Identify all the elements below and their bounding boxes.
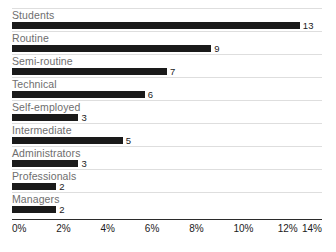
x-tick-label: 0%: [12, 222, 26, 235]
x-tick-label: 4%: [101, 222, 115, 235]
bar-row: Managers2: [0, 192, 336, 215]
bar-track: 5: [12, 137, 322, 144]
bar-row: Intermediate5: [0, 123, 336, 146]
x-tick-label: 6%: [145, 222, 159, 235]
bar-track: 7: [12, 68, 322, 75]
x-tick-label: 8%: [189, 222, 203, 235]
bar-value-label: 2: [56, 204, 64, 215]
bar-row: Semi-routine7: [0, 54, 336, 77]
bar-fill: [12, 206, 56, 213]
bar-fill: [12, 137, 123, 144]
bar-value-label: 7: [167, 66, 175, 77]
bar-track: 9: [12, 45, 322, 52]
x-axis-line: [12, 219, 322, 220]
bar-category-label: Managers: [12, 193, 60, 205]
bar-track: 13: [12, 22, 322, 29]
bar-value-label: 6: [145, 89, 153, 100]
bar-row: Routine9: [0, 31, 336, 54]
bar-fill: [12, 45, 211, 52]
bar-category-label: Intermediate: [12, 124, 72, 136]
x-axis: 0%2%4%6%8%10%12%14%: [0, 219, 336, 252]
bar-value-label: 2: [56, 181, 64, 192]
bar-category-label: Professionals: [12, 170, 76, 182]
bar-row: Administrators3: [0, 146, 336, 169]
bar-fill: [12, 22, 300, 29]
row-separator: [12, 8, 322, 9]
bar-track: 3: [12, 160, 322, 167]
bar-value-label: 13: [300, 20, 314, 31]
x-tick-label: 10%: [233, 222, 253, 235]
bar-track: 6: [12, 91, 322, 98]
bar-row: Students13: [0, 8, 336, 31]
bar-category-label: Technical: [12, 78, 57, 90]
bar-row: Professionals2: [0, 169, 336, 192]
bar-category-label: Routine: [12, 32, 49, 44]
bar-fill: [12, 183, 56, 190]
bar-value-label: 9: [211, 43, 219, 54]
bar-category-label: Students: [12, 9, 54, 21]
x-tick-label: 2%: [56, 222, 70, 235]
bar-fill: [12, 114, 78, 121]
row-separator: [12, 31, 322, 32]
x-tick-label: 12%: [278, 222, 298, 235]
bar-row: Self-employed3: [0, 100, 336, 123]
x-axis-ticks: 0%2%4%6%8%10%12%14%: [12, 222, 322, 238]
bar-track: 2: [12, 183, 322, 190]
bar-value-label: 3: [78, 158, 86, 169]
bar-category-label: Administrators: [12, 147, 81, 159]
row-separator: [12, 77, 322, 78]
bar-value-label: 3: [78, 112, 86, 123]
bar-track: 2: [12, 206, 322, 213]
chart-title: [12, 0, 312, 3]
bar-row: Technical6: [0, 77, 336, 100]
x-tick-label: 14%: [302, 222, 322, 235]
bar-value-label: 5: [123, 135, 131, 146]
bar-fill: [12, 91, 145, 98]
bar-track: 3: [12, 114, 322, 121]
bar-fill: [12, 68, 167, 75]
bar-fill: [12, 160, 78, 167]
bar-rows: Students13Routine9Semi-routine7Technical…: [0, 8, 336, 215]
bar-category-label: Semi-routine: [12, 55, 73, 67]
bar-chart: Students13Routine9Semi-routine7Technical…: [0, 0, 336, 252]
bar-category-label: Self-employed: [12, 101, 80, 113]
